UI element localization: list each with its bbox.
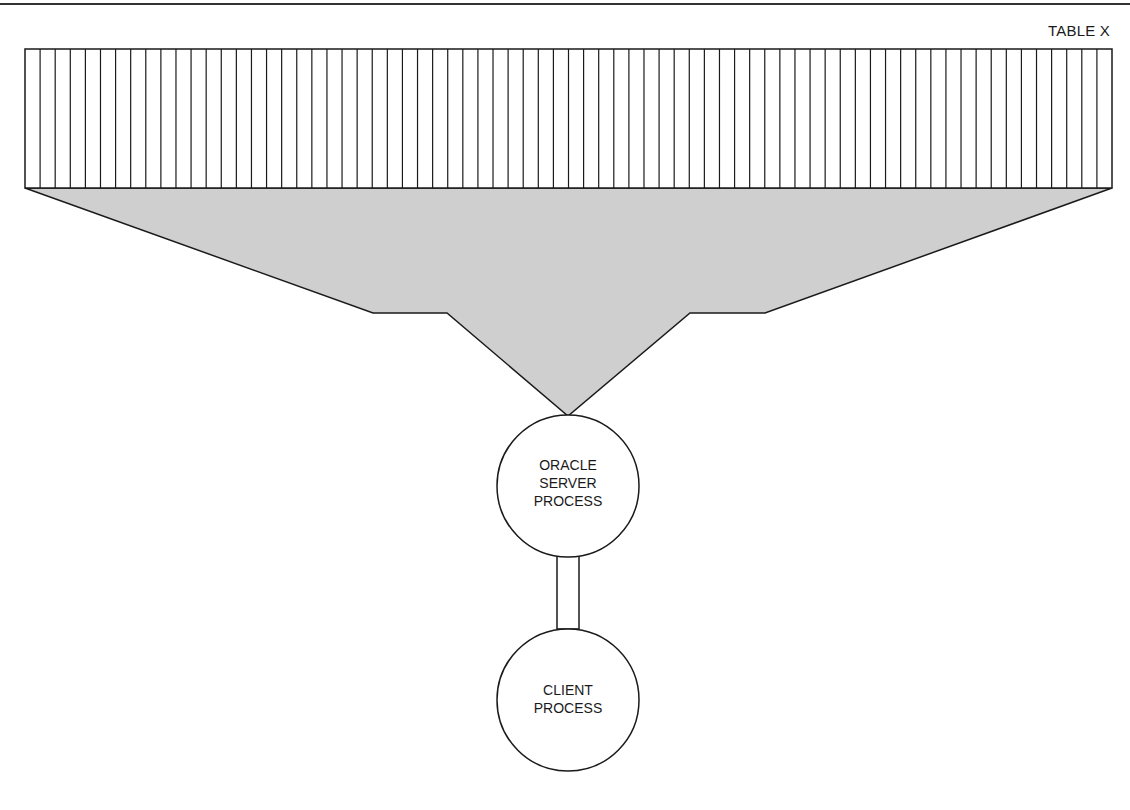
- table-label: TABLE X: [1048, 22, 1110, 39]
- funnel-arrow: [25, 188, 1112, 416]
- client-label-line-2: PROCESS: [534, 700, 602, 716]
- server-label-line-2: SERVER: [539, 475, 596, 491]
- server-label-line-1: ORACLE: [539, 457, 597, 473]
- client-label-line-1: CLIENT: [543, 682, 593, 698]
- client-process-node: CLIENT PROCESS: [497, 629, 639, 771]
- server-label-line-3: PROCESS: [534, 493, 602, 509]
- oracle-server-process-node: ORACLE SERVER PROCESS: [497, 415, 639, 557]
- table-x: [25, 49, 1112, 188]
- diagram-canvas: ORACLE SERVER PROCESS CLIENT PROCESS: [0, 0, 1130, 810]
- connection-link: [557, 555, 579, 629]
